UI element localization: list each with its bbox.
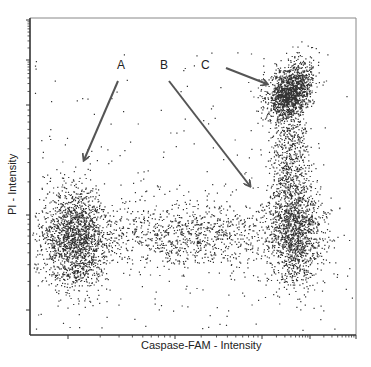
scatter-points (32, 41, 353, 331)
annotation-label-b: B (160, 58, 168, 72)
annotation-label-a: A (117, 58, 125, 72)
annotation-label-c: C (201, 58, 210, 72)
plot-frame (30, 18, 356, 335)
y-axis-label: PI - Intensity (6, 154, 18, 215)
annotation-arrows (84, 68, 267, 186)
axis-ticks (26, 20, 356, 339)
plot-canvas (0, 0, 371, 367)
flow-cytometry-scatter-plot: PI - Intensity Caspase-FAM - Intensity A… (0, 0, 371, 367)
x-axis-label: Caspase-FAM - Intensity (141, 339, 261, 351)
